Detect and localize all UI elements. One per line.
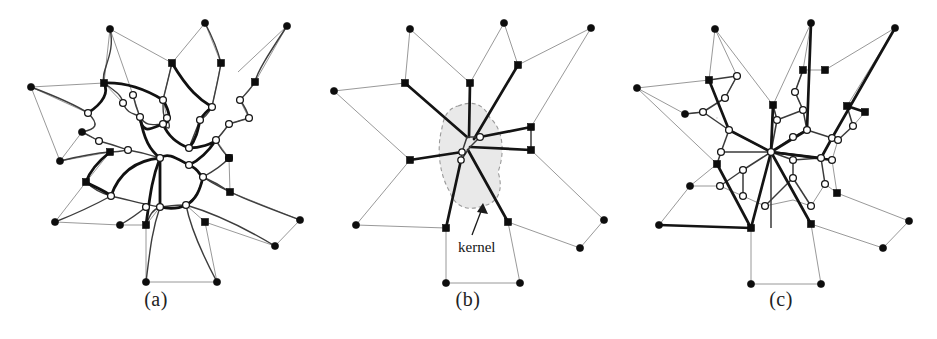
- panel-a: (a): [0, 0, 312, 339]
- panel-a-bold-edges: [86, 63, 216, 225]
- panel-b-kernel-annotation: kernel: [458, 203, 495, 255]
- panel-b-graph: kernel: [312, 0, 624, 300]
- panel-a-curved-edges: [31, 23, 300, 282]
- caption-a: (a): [0, 288, 312, 311]
- kernel-label: kernel: [458, 239, 495, 255]
- caption-b: (b): [312, 288, 624, 311]
- panel-c: (c): [625, 0, 937, 339]
- panel-b: kernel: [312, 0, 624, 339]
- panel-a-graph: [0, 0, 312, 300]
- panel-c-bold-edges: [659, 23, 895, 228]
- figure-container: (a): [0, 0, 937, 339]
- caption-c: (c): [625, 288, 937, 311]
- panel-c-open-nodes: [700, 73, 857, 210]
- panel-a-faint-edges: [31, 23, 300, 282]
- panel-c-graph: [625, 0, 937, 300]
